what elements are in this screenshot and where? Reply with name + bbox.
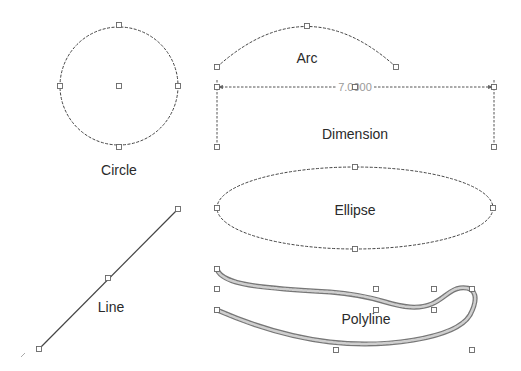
line-grip-end[interactable] [37,347,42,352]
polyline-label: Polyline [341,311,390,327]
arc-grip-end[interactable] [394,65,399,70]
polyline-grip[interactable] [432,287,437,292]
polyline-grip[interactable] [470,287,475,292]
polyline-grip[interactable] [215,267,220,272]
ellipse-grip-right[interactable] [491,206,496,211]
ellipse-grip-left[interactable] [215,206,220,211]
ellipse-grip-top[interactable] [353,165,358,170]
dimension-grip-right-base[interactable] [492,145,497,150]
arc-label: Arc [297,50,318,66]
circle-grip-right[interactable] [176,84,181,89]
line-grip-mid[interactable] [106,276,111,281]
ellipse-label: Ellipse [334,202,375,218]
polyline-grip[interactable] [334,348,339,353]
arc-grip-mid[interactable] [305,24,310,29]
cursor-tick-icon [21,353,25,357]
circle-label: Circle [101,162,137,178]
polyline-entity[interactable]: Polyline [215,267,476,353]
dimension-grip-text[interactable] [353,85,358,90]
arc-entity[interactable]: Arc [215,24,399,70]
polyline-grip[interactable] [215,287,220,292]
line-label: Line [98,299,125,315]
line-grip-start[interactable] [176,207,181,212]
dimension-label: Dimension [322,126,388,142]
polyline-grip[interactable] [432,308,437,313]
dimension-entity[interactable]: 7.0000 Dimension [215,80,497,150]
dimension-grip-right[interactable] [492,85,497,90]
ellipse-grip-bottom[interactable] [353,247,358,252]
arc-grip-start[interactable] [215,65,220,70]
dimension-grip-left-base[interactable] [215,145,220,150]
circle-grip-top[interactable] [117,23,122,28]
polyline-grip[interactable] [215,308,220,313]
circle-grip-bottom[interactable] [117,145,122,150]
dimension-grip-left[interactable] [215,85,220,90]
ellipse-entity[interactable]: Ellipse [215,165,496,252]
circle-grip-center[interactable] [117,84,122,89]
polyline-shape[interactable] [217,269,475,344]
polyline-grip[interactable] [374,287,379,292]
line-entity[interactable]: Line [21,207,181,358]
polyline-grip[interactable] [470,348,475,353]
circle-entity[interactable]: Circle [58,23,181,179]
drawing-canvas[interactable]: Circle Arc 7.0000 Dimension Ellipse [0,0,521,371]
circle-grip-left[interactable] [58,84,63,89]
